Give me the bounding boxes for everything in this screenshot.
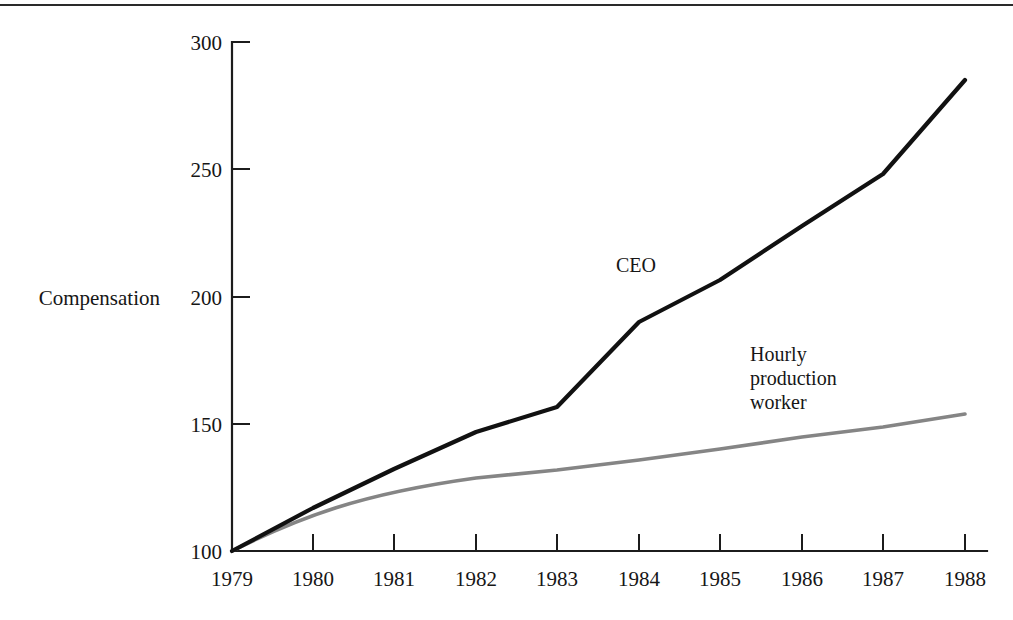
x-tick-label-1985: 1985 <box>699 567 741 591</box>
series-line-hourly-production-worker <box>232 414 965 551</box>
x-tick-label-1980: 1980 <box>292 567 334 591</box>
line-chart-plot: 300 250 200 150 100 Compensation 1979 19… <box>0 0 1013 620</box>
x-tick-label-1984: 1984 <box>618 567 661 591</box>
series-label-hourly-line3: worker <box>750 391 807 413</box>
x-tick-marks <box>313 534 965 551</box>
x-tick-label-1981: 1981 <box>373 567 415 591</box>
y-tick-label-250: 250 <box>191 158 223 182</box>
y-tick-marks <box>232 42 250 551</box>
series-label-hourly-line1: Hourly <box>750 343 807 366</box>
y-tick-label-300: 300 <box>191 31 223 55</box>
series-label-hourly-production-worker: Hourly production worker <box>750 343 837 413</box>
y-axis-title: Compensation <box>39 286 161 310</box>
y-tick-label-100: 100 <box>191 540 223 564</box>
x-tick-label-1986: 1986 <box>781 567 823 591</box>
series-label-hourly-line2: production <box>750 367 837 390</box>
chart-figure: 300 250 200 150 100 Compensation 1979 19… <box>0 0 1013 620</box>
y-tick-label-150: 150 <box>191 413 223 437</box>
y-tick-label-200: 200 <box>191 286 223 310</box>
series-line-ceo <box>232 80 965 551</box>
x-tick-label-1979: 1979 <box>211 567 253 591</box>
x-tick-label-1982: 1982 <box>455 567 497 591</box>
series-label-ceo: CEO <box>616 254 656 276</box>
x-tick-label-1988: 1988 <box>944 567 986 591</box>
x-tick-label-1987: 1987 <box>862 567 904 591</box>
x-tick-label-1983: 1983 <box>536 567 578 591</box>
